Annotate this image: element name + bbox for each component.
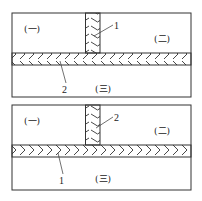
region-right-label: (二): [154, 34, 170, 44]
region-left-label: (一): [24, 116, 40, 126]
diagram-bottom: 2 1 (一) (二) (三): [12, 105, 191, 190]
region-right-label: (二): [154, 126, 170, 136]
callout-horizontal: 2: [62, 84, 67, 95]
horizontal-band: [12, 145, 191, 157]
horizontal-band: [12, 53, 191, 65]
region-bottom-label: (三): [95, 174, 111, 184]
region-left-label: (一): [24, 24, 40, 34]
diagram-canvas: 1 2 (一) (二) (三) 2 1 (一) (二) (三): [0, 0, 202, 201]
vertical-band: [86, 105, 101, 145]
diagram-top: 1 2 (一) (二) (三): [12, 13, 191, 97]
region-bottom-label: (三): [95, 84, 111, 94]
callout-horizontal: 1: [59, 175, 64, 186]
callout-vertical: 2: [114, 112, 119, 123]
callout-vertical: 1: [114, 20, 119, 31]
vertical-band: [86, 13, 101, 53]
